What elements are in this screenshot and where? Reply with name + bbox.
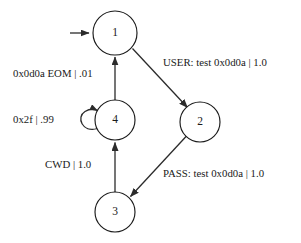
edge-label-2-to-3: PASS: test 0x0d0a | 1.0 (163, 168, 264, 179)
edge-label-3-to-4: CWD | 1.0 (45, 159, 91, 170)
node-1-label: 1 (112, 26, 118, 38)
node-2-label: 2 (197, 115, 203, 127)
edge-label-4-self-loop: 0x2f | .99 (13, 114, 54, 125)
node-3-label: 3 (112, 205, 118, 217)
edge-label-1-to-2: USER: test 0x0d0a | 1.0 (163, 57, 267, 68)
edge-label-4-to-1: 0x0d0a EOM | .01 (13, 68, 93, 79)
node-4-label: 4 (112, 113, 118, 125)
fsm-diagram: 1 2 3 4 0x0d0a EOM | .01 0x2f | .99 CWD … (0, 0, 301, 243)
